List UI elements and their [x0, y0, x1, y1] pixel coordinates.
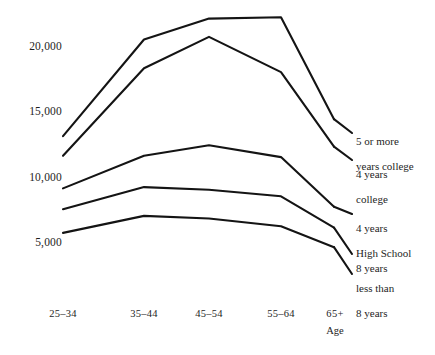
x-axis-tick-25-34: 25–34	[28, 308, 98, 319]
series-path-group	[63, 17, 334, 247]
series-line-1	[63, 37, 334, 156]
leader-line-0	[334, 119, 352, 133]
series-label-line-1: 4 years	[356, 168, 387, 180]
series-label-line-1: 5 or more	[356, 135, 399, 147]
x-axis-title: Age	[300, 325, 370, 336]
series-line-0	[63, 17, 334, 136]
series-label-less-than-8-years: less than 8 years	[356, 269, 394, 319]
y-axis-tick-20000: 20,000	[0, 40, 62, 52]
x-axis-tick-35-44: 35–44	[109, 308, 179, 319]
y-axis-tick-10000: 10,000	[0, 171, 62, 183]
series-label-line-1: 4 years	[356, 222, 387, 234]
y-axis-tick-5000: 5,000	[0, 236, 62, 248]
y-axis-tick-15000: 15,000	[0, 105, 62, 117]
series-label-line-2: college	[356, 193, 388, 205]
legend-leader-line-group	[334, 119, 352, 274]
series-label-4-years-college: 4 years college	[356, 155, 388, 205]
leader-line-2	[334, 207, 352, 214]
series-label-line-1: less than	[356, 282, 394, 294]
leader-line-1	[334, 147, 352, 160]
series-line-3	[63, 187, 334, 228]
x-axis-tick-45-54: 45–54	[174, 308, 244, 319]
series-line-4	[63, 216, 334, 247]
line-chart: 20,000 15,000 10,000 5,000 25–34 35–44 4…	[0, 0, 435, 355]
series-label-line-2: 8 years	[356, 307, 387, 319]
